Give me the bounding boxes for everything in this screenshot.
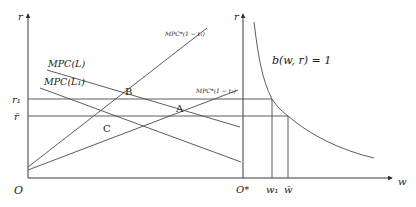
r1-label: r₁ <box>12 94 21 105</box>
economics-diagram: r O r₁ r̄ MPC(L) MPC(L₁) MPC*(1 − t₁) MP… <box>0 0 416 207</box>
mpc-L1-label: MPC(L₁) <box>43 76 85 87</box>
origin-O-label: O <box>14 184 23 197</box>
w1-label: w₁ <box>266 184 279 195</box>
origin-O-star-label: O* <box>236 184 249 195</box>
point-A-label: A <box>175 103 184 114</box>
w-axis-label: w <box>398 176 407 187</box>
point-B-label: B <box>125 86 132 97</box>
point-C-label: C <box>103 123 111 134</box>
rbar-label: r̄ <box>14 111 20 122</box>
right-r-axis-label: r <box>234 11 240 22</box>
mpc-star-t2-line <box>28 90 238 170</box>
mpc-star-t1-line <box>28 28 207 167</box>
left-r-axis-label: r <box>18 11 24 22</box>
mpc-L-label: MPC(L) <box>47 58 85 69</box>
curve-label: b(w, r) = 1 <box>272 54 331 67</box>
wbar-label: w̄ <box>284 184 293 195</box>
mpc-star-t2-label: MPC*(1 − t₂) <box>195 87 237 94</box>
mpc-star-t1-label: MPC*(1 − t₁) <box>164 30 206 37</box>
